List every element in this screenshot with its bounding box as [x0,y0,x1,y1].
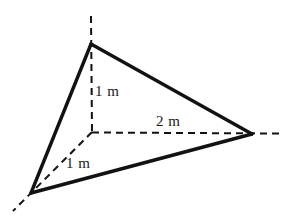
edge-bottom-left-to-right [31,134,252,193]
dimension-label-depth: 1 m [66,156,90,171]
figure-canvas: 1 m 2 m 1 m [0,0,295,221]
triangle-diagram [0,0,295,221]
vertical-axis-dashed-line [91,16,92,132]
dimension-label-height: 1 m [95,84,119,99]
dashed-construction-lines [13,16,281,211]
triangle-outline [31,44,252,193]
dimension-label-base: 2 m [156,114,180,129]
